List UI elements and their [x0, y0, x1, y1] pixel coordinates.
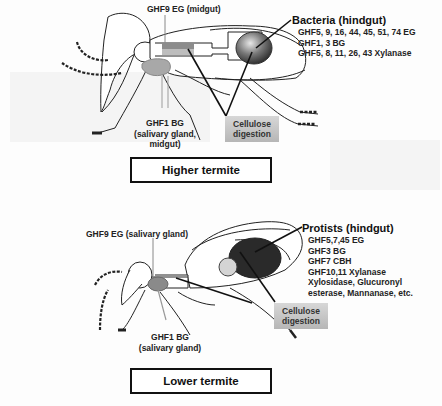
ghf1-line2: (salivary gland): [130, 343, 210, 354]
higher-termite-title: Higher termite: [130, 157, 272, 183]
protists-heading: Protists (hindgut): [302, 222, 413, 235]
ghf9-salivary-label: GHF9 EG (salivary gland): [86, 229, 188, 240]
protist-cell: [219, 258, 237, 276]
protists-hindgut-label: Protists (hindgut) GHF5,7,45 EG GHF3 BG …: [302, 222, 413, 299]
protist-enzyme: GHF3 BG: [302, 246, 413, 257]
ghf1-line2: (salivary gland,: [125, 129, 205, 140]
midgut-bar: [162, 43, 194, 49]
termite-illustrations: [0, 0, 442, 406]
bacteria-hindgut: [236, 32, 272, 64]
ghf9-midgut-label: GHF9 EG (midgut): [147, 4, 221, 15]
cellulose-line2: digestion: [225, 129, 279, 140]
bacteria-enzyme: GHF5, 9, 16, 44, 45, 51, 74 EG: [292, 27, 416, 38]
cellulose-line1: Cellulose: [225, 119, 279, 130]
cellulose-line1: Cellulose: [274, 306, 328, 317]
bacteria-heading: Bacteria (hindgut): [292, 14, 416, 27]
cellulose-digestion-box-higher: Cellulose digestion: [225, 116, 279, 142]
protist-enzyme: GHF7 CBH: [302, 256, 413, 267]
protist-hindgut: [229, 238, 281, 278]
ghf1-salivary-label: GHF1 BG (salivary gland, midgut): [125, 118, 205, 150]
lower-termite-title: Lower termite: [130, 368, 272, 394]
salivary-gland: [142, 59, 170, 76]
salivary-gland-lower: [148, 277, 168, 291]
protist-enzyme: GHF5,7,45 EG: [302, 235, 413, 246]
ghf1-line3: midgut): [125, 139, 205, 150]
bacteria-enzyme: GHF1, 3 BG: [292, 38, 416, 49]
cellulose-line2: digestion: [274, 316, 328, 327]
ghf1-line1: GHF1 BG: [130, 332, 210, 343]
protist-enzyme: Xylosidase, Glucuronyl: [302, 277, 413, 288]
cellulose-digestion-box-lower: Cellulose digestion: [274, 303, 328, 329]
bacteria-enzyme: GHF5, 8, 11, 26, 43 Xylanase: [292, 48, 416, 59]
protist-enzyme: GHF10,11 Xylanase: [302, 267, 413, 278]
ghf1-salivary-label-lower: GHF1 BG (salivary gland): [130, 332, 210, 353]
ghf1-line1: GHF1 BG: [125, 118, 205, 129]
termite-digestion-diagram: GHF9 EG (midgut) GHF1 BG (salivary gland…: [0, 0, 442, 406]
bacteria-hindgut-label: Bacteria (hindgut) GHF5, 9, 16, 44, 45, …: [292, 14, 416, 59]
protist-enzyme: esterase, Mannanase, etc.: [302, 288, 413, 299]
